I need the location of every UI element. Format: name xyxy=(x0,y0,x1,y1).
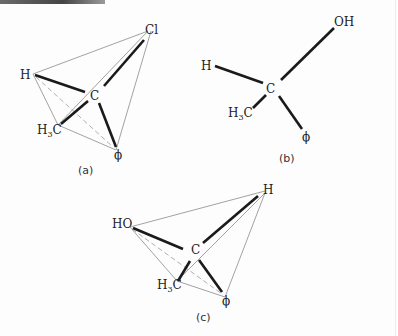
figure-canvas: Cl H C H3C ϕ (a) OH H C H3C ϕ (b) xyxy=(0,0,398,336)
bond-c-oh xyxy=(281,28,334,80)
bond-c-h3c xyxy=(253,95,266,108)
label-phi: ϕ xyxy=(302,130,310,144)
label-phi: ϕ xyxy=(114,148,122,162)
bond-c-cl xyxy=(104,40,144,86)
label-h3c: H3C xyxy=(157,278,182,294)
stereochemistry-diagram: Cl H C H3C ϕ (a) OH H C H3C ϕ (b) xyxy=(0,0,398,336)
label-h: H xyxy=(263,183,273,197)
bond-c-phi xyxy=(279,96,302,129)
label-oh: OH xyxy=(334,15,354,29)
molecule-b: OH H C H3C ϕ (b) xyxy=(201,15,354,165)
bond-c-h xyxy=(215,66,263,83)
label-c: C xyxy=(90,89,99,103)
edge-h3c-phi xyxy=(58,125,116,150)
caption-b: (b) xyxy=(279,152,295,165)
label-c: C xyxy=(266,82,275,96)
label-h: H xyxy=(20,68,30,82)
label-h3c: H3C xyxy=(228,106,253,122)
bond-c-phi xyxy=(99,103,116,147)
bond-c-h xyxy=(203,196,258,243)
edge-ho-h3c xyxy=(130,227,177,281)
label-cl: Cl xyxy=(145,23,158,37)
edge-h3c-phi xyxy=(177,281,225,297)
bond-c-h xyxy=(35,75,85,92)
caption-a: (a) xyxy=(78,164,93,177)
label-ho: HO xyxy=(112,217,132,231)
label-c: C xyxy=(191,243,200,257)
edge-h3c-h xyxy=(177,193,265,281)
edge-h-cl xyxy=(33,31,148,74)
label-phi: ϕ xyxy=(222,294,230,308)
caption-c: (c) xyxy=(196,311,211,324)
edge-phi-cl xyxy=(116,31,151,150)
molecule-c: H HO C H3C ϕ (c) xyxy=(112,183,273,324)
label-h3c: H3C xyxy=(37,123,62,139)
bond-c-phi xyxy=(199,260,222,292)
molecule-a: Cl H C H3C ϕ (a) xyxy=(20,23,158,177)
label-h: H xyxy=(201,59,211,73)
